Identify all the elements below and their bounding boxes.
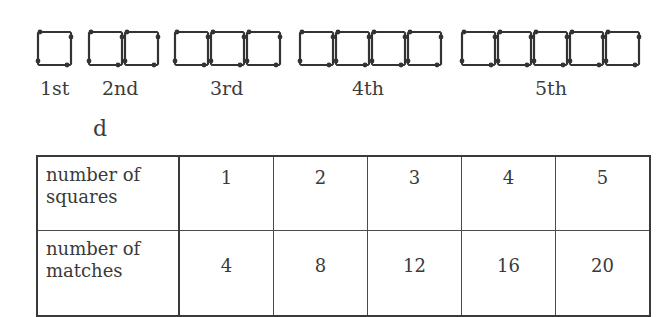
term-label-4th: 4th [352, 78, 384, 98]
match-head [367, 35, 372, 40]
row-header-matches: number of matches [37, 231, 179, 317]
matchstick-square [173, 30, 211, 68]
match-head [460, 59, 465, 64]
match-head [532, 59, 537, 64]
matchstick-square [87, 30, 125, 68]
match-head [334, 59, 339, 64]
table-row-matches: number of matches 4 8 12 16 20 [37, 231, 650, 317]
match-head [565, 35, 570, 40]
match-head [489, 63, 494, 68]
match-head [370, 59, 375, 64]
table-cell: 4 [462, 156, 556, 231]
matchstick-square [298, 30, 336, 68]
row-header-line1: number of [46, 164, 170, 186]
matchstick-square [370, 30, 408, 68]
match-head [601, 35, 606, 40]
table-row-squares: number of squares 1 2 3 4 5 [37, 156, 650, 231]
match-head [152, 63, 157, 68]
table-cell: 20 [556, 231, 651, 317]
term-group-2nd [87, 30, 161, 68]
match-head [173, 59, 178, 64]
match-head [65, 63, 70, 68]
matchstick-square [460, 30, 498, 68]
match-head [435, 63, 440, 68]
match-head [525, 63, 530, 68]
matchstick-square [496, 30, 534, 68]
match-head [399, 63, 404, 68]
row-header-line2: matches [46, 260, 170, 282]
match-head [245, 59, 250, 64]
matchstick-square [406, 30, 444, 68]
match-head [274, 63, 279, 68]
term-group-3rd [173, 30, 283, 68]
matchstick-square [532, 30, 570, 68]
match-head [202, 63, 207, 68]
match-head [242, 35, 247, 40]
match-head [123, 59, 128, 64]
match-head [529, 35, 534, 40]
table-cell: 12 [368, 231, 462, 317]
table-cell: 16 [462, 231, 556, 317]
matchstick-square [209, 30, 247, 68]
match-head [493, 35, 498, 40]
matchstick-squares-diagram [0, 0, 667, 80]
table-cell: 1 [179, 156, 274, 231]
match-head [327, 63, 332, 68]
match-head [604, 59, 609, 64]
term-label-3rd: 3rd [210, 78, 243, 98]
match-head [156, 35, 161, 40]
match-head [120, 35, 125, 40]
matchstick-square [36, 30, 74, 68]
row-header-line2: squares [46, 186, 170, 208]
match-head [278, 35, 283, 40]
match-head [69, 35, 74, 40]
term-label-5th: 5th [535, 78, 567, 98]
matchstick-square [568, 30, 606, 68]
table-cell: 8 [274, 231, 368, 317]
match-head [561, 63, 566, 68]
table-cell: 4 [179, 231, 274, 317]
match-head [633, 63, 638, 68]
match-head [87, 59, 92, 64]
match-head [36, 59, 41, 64]
match-head [406, 59, 411, 64]
match-head [439, 35, 444, 40]
match-head [209, 59, 214, 64]
match-head [116, 63, 121, 68]
match-head [363, 63, 368, 68]
match-head [568, 59, 573, 64]
term-group-5th [460, 30, 642, 68]
part-letter: d [93, 118, 107, 140]
matchstick-square [604, 30, 642, 68]
match-head [637, 35, 642, 40]
term-label-2nd: 2nd [102, 78, 139, 98]
match-head [298, 59, 303, 64]
row-header-line1: number of [46, 238, 170, 260]
match-head [597, 63, 602, 68]
row-header-squares: number of squares [37, 156, 179, 231]
match-head [206, 35, 211, 40]
table-cell: 5 [556, 156, 651, 231]
match-head [331, 35, 336, 40]
term-group-4th [298, 30, 444, 68]
term-label-1st: 1st [40, 78, 69, 98]
table-cell: 2 [274, 156, 368, 231]
match-head [403, 35, 408, 40]
matchstick-square [334, 30, 372, 68]
match-head [496, 59, 501, 64]
match-head [238, 63, 243, 68]
squares-matches-table: number of squares 1 2 3 4 5 number of ma… [36, 155, 651, 317]
term-group-1st [36, 30, 74, 68]
matchstick-square [123, 30, 161, 68]
matchstick-square [245, 30, 283, 68]
table-cell: 3 [368, 156, 462, 231]
